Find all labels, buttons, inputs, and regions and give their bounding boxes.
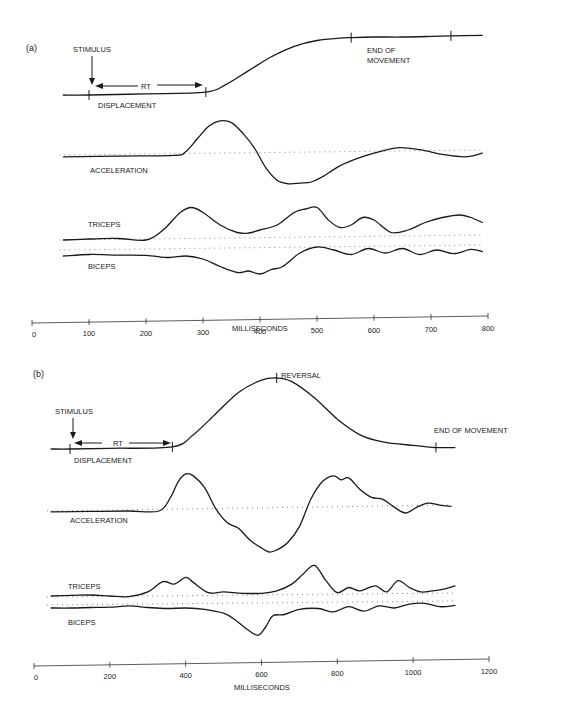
- panel-b-x-tick-label: 400: [179, 671, 192, 680]
- panel-a-x-tick-label: 200: [140, 329, 153, 338]
- panel-b-displacement-label: DISPLACEMENT: [74, 456, 133, 465]
- panel-b-biceps-baseline: [47, 601, 455, 605]
- panel-b-triceps-trace: [51, 565, 455, 597]
- panel-a-x-tick-label: 700: [425, 325, 438, 334]
- panel-a-rt-arrowhead-left: [95, 83, 103, 89]
- panel-a-x-tick-label: 600: [368, 326, 381, 335]
- panel-b-xlabel: MILLISECONDS: [234, 683, 290, 692]
- panel-a-end-label-1: END OF: [367, 46, 396, 55]
- panel-a-triceps-label: TRICEPS: [88, 220, 121, 229]
- panel-b-x-tick-label: 0: [34, 673, 38, 682]
- panel-a-stimulus-arrowhead: [89, 78, 95, 85]
- panel-b-end-label: END OF MOVEMENT: [434, 426, 508, 435]
- panel-a-x-tick-label: 100: [83, 329, 96, 338]
- panel-b-x-tick-label: 1200: [481, 667, 498, 676]
- panel-b-acceleration-label: ACCELERATION: [70, 516, 128, 525]
- panel-b: (b) REVERSAL STIMULUS RT END OF MOVEMENT…: [33, 369, 508, 692]
- panel-b-reversal-label: REVERSAL: [281, 371, 321, 380]
- panel-b-x-tick-label: 1000: [405, 668, 422, 677]
- panel-a-end-label-2: MOVEMENT: [367, 56, 411, 65]
- panel-a-stimulus-label: STIMULUS: [73, 45, 111, 54]
- panel-a-rt-label: RT: [141, 82, 151, 91]
- panel-a-biceps-trace: [63, 247, 482, 274]
- panel-a-acceleration-baseline: [59, 150, 482, 155]
- panel-b-biceps-trace: [51, 603, 455, 635]
- panel-b-biceps-label: BICEPS: [68, 618, 96, 627]
- panel-a-acceleration-label: ACCELERATION: [90, 166, 148, 175]
- panel-b-x-tick-label: 800: [331, 669, 344, 678]
- panel-a-rt-arrowhead-right: [195, 82, 203, 88]
- panel-b-x-tick-label: 600: [255, 670, 268, 679]
- panel-a-displacement-label: DISPLACEMENT: [98, 101, 157, 110]
- panel-a-x-tick-label: 300: [197, 328, 210, 337]
- panel-b-rt-arrowhead-left: [74, 440, 82, 446]
- panel-a-x-tick-label: 800: [482, 324, 495, 333]
- panel-b-acceleration-baseline: [47, 505, 451, 511]
- panel-b-rt-label: RT: [113, 439, 123, 448]
- panel-a-biceps-baseline: [59, 245, 482, 250]
- panel-b-x-tick-label: 200: [104, 672, 117, 681]
- panel-b-displacement-trace: [51, 378, 455, 449]
- figure: (a) STIMULUS RT END OF MOVEMENT DISPLACE…: [0, 0, 562, 727]
- panel-a-x-tick-label: 500: [311, 326, 324, 335]
- panel-a-x-tick-label: 0: [32, 330, 36, 339]
- panel-a: (a) STIMULUS RT END OF MOVEMENT DISPLACE…: [26, 31, 494, 339]
- panel-a-triceps-trace: [63, 207, 482, 241]
- panel-a-xlabel: MILLISECONDS: [232, 324, 288, 333]
- panel-b-stimulus-arrowhead: [70, 432, 76, 439]
- panel-b-triceps-label: TRICEPS: [68, 582, 101, 591]
- panel-b-stimulus-label: STIMULUS: [55, 407, 93, 416]
- panel-a-label: (a): [26, 43, 37, 53]
- panel-b-acceleration-trace: [51, 474, 451, 553]
- panel-b-label: (b): [33, 369, 44, 379]
- panel-b-rt-arrowhead-right: [163, 440, 171, 446]
- panel-a-biceps-label: BICEPS: [88, 262, 116, 271]
